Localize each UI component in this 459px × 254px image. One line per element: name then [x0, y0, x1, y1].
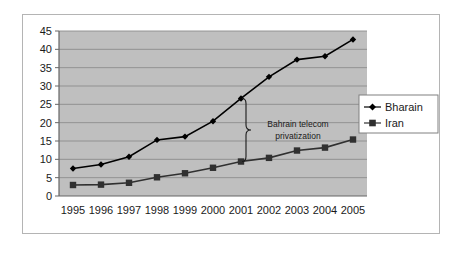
data-point-square: [350, 136, 356, 142]
square-icon: [369, 120, 376, 127]
x-tick-label: 2005: [341, 204, 365, 216]
plot-area-background: [59, 31, 367, 196]
legend-label-bharain: Bharain: [385, 101, 423, 113]
x-axis-ticks: 1995199619971998199920002001200220032004…: [61, 204, 365, 216]
line-chart: 051015202530354045 199519961997199819992…: [23, 15, 439, 233]
chart-legend: Bharain Iran: [359, 95, 438, 133]
y-tick-label: 10: [40, 153, 52, 165]
y-tick-label: 0: [46, 190, 52, 202]
data-point-square: [210, 165, 216, 171]
x-tick-label: 1996: [89, 204, 113, 216]
x-tick-label: 2001: [229, 204, 253, 216]
legend-label-iran: Iran: [385, 117, 404, 129]
chart-figure-frame: 051015202530354045 199519961997199819992…: [22, 14, 440, 234]
data-point-square: [322, 144, 328, 150]
x-tick-label: 1998: [145, 204, 169, 216]
y-tick-label: 25: [40, 98, 52, 110]
x-tick-label: 2004: [313, 204, 337, 216]
y-axis-ticks: 051015202530354045: [40, 25, 59, 202]
data-point-square: [294, 147, 300, 153]
x-tick-label: 1995: [61, 204, 85, 216]
y-tick-label: 45: [40, 25, 52, 37]
x-tick-label: 1997: [117, 204, 141, 216]
x-tick-label: 2003: [285, 204, 309, 216]
y-tick-label: 5: [46, 172, 52, 184]
data-point-square: [266, 155, 272, 161]
y-tick-label: 40: [40, 43, 52, 55]
x-tick-label: 2002: [257, 204, 281, 216]
x-tick-label: 1999: [173, 204, 197, 216]
data-point-square: [98, 181, 104, 187]
y-tick-label: 20: [40, 117, 52, 129]
y-tick-label: 30: [40, 80, 52, 92]
data-point-square: [126, 180, 132, 186]
y-tick-label: 35: [40, 62, 52, 74]
x-tick-label: 2000: [201, 204, 225, 216]
data-point-square: [70, 182, 76, 188]
annotation-line-1: Bahrain telecom: [267, 119, 328, 129]
data-point-square: [182, 170, 188, 176]
annotation-line-2: privatization: [275, 131, 321, 141]
y-tick-label: 15: [40, 135, 52, 147]
data-point-square: [154, 174, 160, 180]
